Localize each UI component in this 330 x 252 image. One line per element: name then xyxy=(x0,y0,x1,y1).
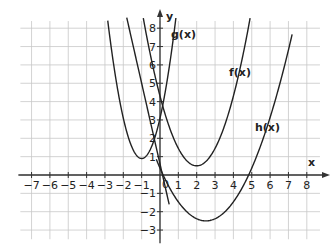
x-tick-label: 4 xyxy=(230,179,237,192)
x-tick-label: −3 xyxy=(97,179,113,192)
x-tick-label: 8 xyxy=(303,179,310,192)
y-tick-label: 1 xyxy=(149,151,156,164)
x-axis-label: x xyxy=(308,156,315,169)
y-axis-label: y xyxy=(166,10,173,23)
x-tick-label: 6 xyxy=(267,179,274,192)
x-tick-label: −6 xyxy=(42,179,58,192)
y-tick-label: 4 xyxy=(149,96,156,109)
x-tick-label: 3 xyxy=(212,179,219,192)
x-tick-label: 5 xyxy=(248,179,255,192)
x-tick-label: −7 xyxy=(23,179,39,192)
axes xyxy=(18,9,330,243)
y-tick-label: 8 xyxy=(149,22,156,35)
y-tick-label: −2 xyxy=(140,206,156,219)
coordinate-plane: −7−6−5−4−3−2−112345678−3−2−112345678 x y… xyxy=(0,0,330,252)
h-function-label: h(x) xyxy=(255,121,280,134)
x-axis-arrow-icon xyxy=(322,172,330,178)
f-function-label: f(x) xyxy=(229,66,251,79)
g-function-label: g(x) xyxy=(171,28,196,41)
x-tick-label: 1 xyxy=(175,179,182,192)
x-tick-label: 2 xyxy=(193,179,200,192)
x-tick-label: −5 xyxy=(60,179,76,192)
y-tick-label: −3 xyxy=(140,224,156,237)
x-tick-label: −4 xyxy=(78,179,94,192)
origin-label: 0 xyxy=(162,178,169,191)
x-tick-label: 7 xyxy=(285,179,292,192)
function-graph: −7−6−5−4−3−2−112345678−3−2−112345678 x y… xyxy=(0,0,330,252)
y-tick-label: 5 xyxy=(149,77,156,90)
y-axis-arrow-icon xyxy=(157,9,163,17)
x-tick-label: −2 xyxy=(115,179,131,192)
y-tick-label: −1 xyxy=(140,187,156,200)
